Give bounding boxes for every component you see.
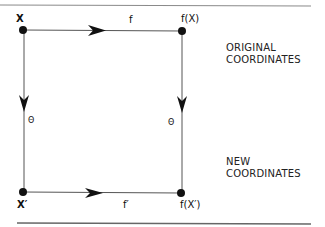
node-dot-fx (178, 27, 186, 35)
new-line2: COORDINATES (226, 168, 301, 180)
node-dot-x-prime (19, 188, 27, 196)
edge-label-f: f (129, 14, 133, 25)
node-label-x: X (16, 13, 24, 24)
node-label-x-prime: X′ (17, 199, 27, 210)
new-line1: NEW (226, 156, 301, 168)
bottom-rule (17, 223, 311, 224)
node-dot-fx-prime (177, 189, 185, 197)
original-line1: ORIGINAL (226, 42, 301, 54)
edge-label-theta-right: Θ (168, 118, 174, 127)
arrow-right-icon (85, 188, 103, 198)
node-dot-x (19, 26, 27, 34)
node-label-fx-prime: f(X′) (180, 199, 200, 210)
commutative-diagram (0, 0, 325, 227)
original-line2: COORDINATES (226, 54, 301, 66)
edge-label-f-prime: f′ (123, 199, 129, 210)
new-coordinates-label: NEW COORDINATES (226, 156, 301, 180)
edge-label-theta-left: Θ (28, 116, 34, 125)
original-coordinates-label: ORIGINAL COORDINATES (226, 42, 301, 66)
top-rule (0, 5, 311, 6)
node-label-fx: f(X) (181, 13, 199, 24)
